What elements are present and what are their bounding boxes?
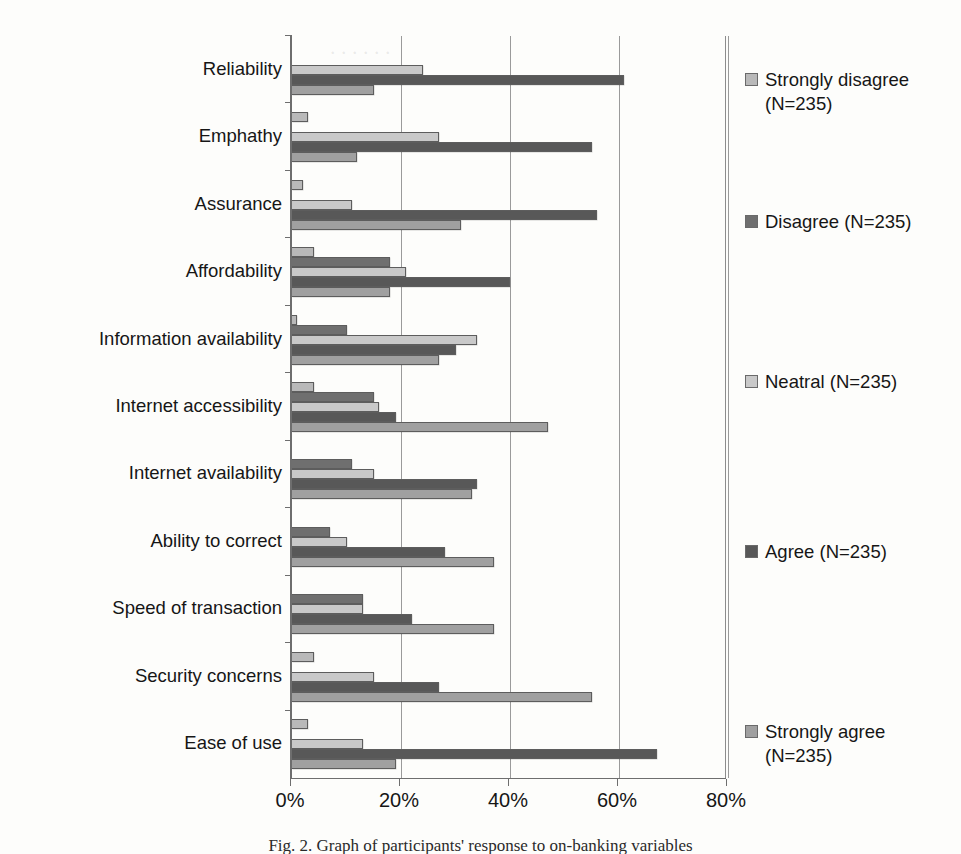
y-axis-tick: [285, 575, 292, 576]
bar: [292, 345, 456, 355]
bar: [292, 210, 597, 220]
legend-swatch-icon: [745, 215, 758, 228]
x-axis-tick: [617, 779, 618, 786]
bar: [292, 180, 303, 190]
x-axis-tick: [399, 779, 400, 786]
bar: [292, 277, 510, 287]
bar: [292, 152, 357, 162]
legend-swatch-icon: [745, 545, 758, 558]
chart-legend: Strongly disagree (N=235)Disagree (N=235…: [745, 40, 957, 785]
bar: [292, 604, 363, 614]
legend-item-strongly-agree-n-235[interactable]: Strongly agree (N=235): [745, 720, 943, 767]
figure-caption: Fig. 2. Graph of participants' response …: [0, 836, 961, 854]
y-axis-tick: [285, 237, 292, 238]
figure-container: . . . . . . . . . . . ReliabilityEmphath…: [0, 0, 961, 854]
y-axis-labels: ReliabilityEmphathyAssuranceAffordabilit…: [0, 36, 282, 778]
y-axis-tick: [285, 642, 292, 643]
bar: [292, 719, 308, 729]
y-axis-label-internet-accessibility: Internet accessibility: [2, 397, 282, 416]
bar: [292, 85, 374, 95]
chart-plot-area: [290, 36, 726, 778]
bar: [292, 739, 363, 749]
legend-swatch-icon: [745, 375, 758, 388]
legend-item-disagree-n-235[interactable]: Disagree (N=235): [745, 210, 912, 234]
gridline: [728, 36, 729, 778]
bar: [292, 220, 461, 230]
bar-group: [292, 441, 725, 508]
legend-label: Disagree (N=235): [765, 210, 912, 234]
bar: [292, 315, 297, 325]
bar: [292, 692, 592, 702]
bar: [292, 624, 494, 634]
bar: [292, 402, 379, 412]
bar: [292, 325, 347, 335]
bar: [292, 200, 352, 210]
legend-item-agree-n-235[interactable]: Agree (N=235): [745, 540, 887, 564]
bar-group: [292, 373, 725, 440]
bar: [292, 749, 657, 759]
y-axis-label-ease-of-use: Ease of use: [2, 734, 282, 753]
y-axis-tick: [285, 507, 292, 508]
x-axis-tick-label: 40%: [473, 789, 543, 812]
bar-group: [292, 711, 725, 778]
y-axis-tick: [285, 305, 292, 306]
legend-label: Strongly disagree (N=235): [765, 68, 943, 115]
bar-group: [292, 238, 725, 305]
bar: [292, 257, 390, 267]
bar: [292, 527, 330, 537]
x-axis-tick: [508, 779, 509, 786]
bar: [292, 594, 363, 604]
bar: [292, 672, 374, 682]
y-axis-label-security-concerns: Security concerns: [2, 667, 282, 686]
y-axis-tick: [285, 170, 292, 171]
y-axis-label-emphathy: Emphathy: [2, 127, 282, 146]
bar: [292, 557, 494, 567]
bar: [292, 382, 314, 392]
bar: [292, 547, 445, 557]
bar: [292, 355, 439, 365]
y-axis-label-internet-availability: Internet availability: [2, 464, 282, 483]
legend-item-strongly-disagree-n-235[interactable]: Strongly disagree (N=235): [745, 68, 943, 115]
bar: [292, 459, 352, 469]
bar: [292, 65, 423, 75]
legend-swatch-icon: [745, 73, 758, 86]
bar: [292, 287, 390, 297]
bar: [292, 614, 412, 624]
bar: [292, 247, 314, 257]
bar: [292, 112, 308, 122]
bar-group: [292, 643, 725, 710]
bar: [292, 335, 477, 345]
bar: [292, 489, 472, 499]
x-axis-tick-label: 0%: [255, 789, 325, 812]
bar: [292, 469, 374, 479]
y-axis-label-ability-to-correct: Ability to correct: [2, 532, 282, 551]
y-axis-label-speed-of-transaction: Speed of transaction: [2, 599, 282, 618]
bar-group: [292, 306, 725, 373]
bar-group: [292, 576, 725, 643]
y-axis-label-information-availability: Information availability: [2, 330, 282, 349]
bar: [292, 75, 624, 85]
bar: [292, 132, 439, 142]
x-axis-tick: [290, 779, 291, 786]
bar: [292, 422, 548, 432]
bar: [292, 537, 347, 547]
x-axis-tick-label: 20%: [364, 789, 434, 812]
bar: [292, 267, 406, 277]
y-axis-tick: [285, 35, 292, 36]
bar-group: [292, 36, 725, 103]
y-axis-tick: [285, 102, 292, 103]
bar: [292, 682, 439, 692]
x-axis-tick-label: 60%: [582, 789, 652, 812]
legend-label: Agree (N=235): [765, 540, 887, 564]
legend-label: Strongly agree (N=235): [765, 720, 943, 767]
bar: [292, 142, 592, 152]
legend-swatch-icon: [745, 725, 758, 738]
legend-item-neatral-n-235[interactable]: Neatral (N=235): [745, 370, 897, 394]
bar: [292, 412, 396, 422]
x-axis-tick: [726, 779, 727, 786]
x-axis-tick-label: 80%: [691, 789, 761, 812]
bar-group: [292, 103, 725, 170]
y-axis-tick: [285, 372, 292, 373]
bar: [292, 759, 396, 769]
y-axis-tick: [285, 440, 292, 441]
